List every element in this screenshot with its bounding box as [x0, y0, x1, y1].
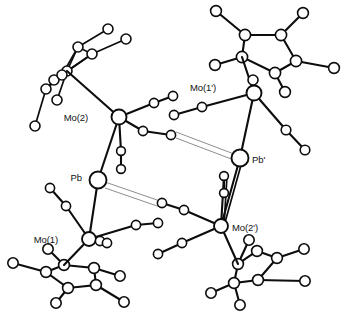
ring-h-atom [8, 258, 18, 268]
ring-atom [239, 29, 250, 40]
ligand-atom [153, 249, 162, 258]
ligand-atom [117, 165, 126, 174]
ring-h-atom [119, 297, 129, 307]
atom-mo1 [82, 232, 96, 246]
ring-atom [63, 283, 74, 294]
ligand-atom [138, 126, 147, 135]
ring-h-atom [52, 95, 62, 105]
ligand-atom [220, 172, 229, 181]
atom-mo1prime [247, 86, 262, 101]
ring-atom [89, 263, 100, 274]
ligand-atom [153, 218, 162, 227]
ring-atom [290, 55, 301, 66]
ligand-atom-group [45, 75, 309, 259]
ring-atom [275, 29, 286, 40]
atom-mo1-overlap-b [102, 238, 111, 247]
cp-ring-top-right [210, 6, 340, 98]
ring-h-atom [211, 6, 222, 17]
ring-h-atom [329, 63, 340, 74]
ligand-atom [248, 75, 258, 85]
ligand-atom [179, 205, 188, 214]
ring-h-atom [244, 235, 254, 245]
label-mo2: Mo(2) [64, 112, 88, 123]
label-mo1prime: Mo(1') [190, 82, 216, 93]
ligand-atom [169, 110, 178, 119]
ligand-atom [45, 183, 54, 192]
ligand-atom [220, 189, 229, 198]
ring-h-atom [43, 244, 53, 254]
ring-atom [269, 67, 280, 78]
ring-h-atom [206, 288, 216, 298]
rod-bond-pb-lower [105, 182, 160, 207]
ligand-atom [61, 201, 70, 210]
atom-pb [90, 172, 107, 189]
ring-h-atom [300, 276, 310, 286]
ligand-atom [117, 147, 126, 156]
ring-atom [253, 275, 264, 286]
ligand-atom [197, 102, 206, 111]
partial-caption [0, 316, 344, 325]
ring-atom [229, 278, 240, 289]
ring-atom [57, 70, 67, 80]
ring-h-atom [103, 24, 113, 34]
cp-ring-bottom-right [206, 235, 310, 310]
label-pbprime: Pb' [252, 154, 265, 165]
ring-h-atom [30, 121, 40, 131]
ring-atom [91, 280, 102, 291]
label-pb: Pb [71, 172, 82, 183]
ring-atom [252, 246, 263, 257]
ring-atom [73, 42, 83, 52]
ring-h-atom [51, 298, 61, 308]
cp-ring-bottom-left [8, 244, 129, 308]
ligand-atom [157, 198, 166, 207]
ring-h-atom [235, 300, 245, 310]
atom-mo2 [112, 110, 127, 125]
ring-atom [272, 253, 283, 264]
ligand-atom [131, 220, 140, 229]
ligand-atom [168, 91, 177, 100]
rod-bond-pbprime-upper [176, 132, 234, 160]
ring-h-atom [115, 271, 125, 281]
ligand-atom [281, 125, 291, 135]
ring-h-atom [41, 84, 51, 94]
ring-h-atom [210, 60, 221, 71]
ligand-atom [166, 130, 175, 139]
molecular-structure-figure: Mo(2) Mo(1') Pb Pb' Mo(1) Mo(2') [0, 0, 344, 325]
ring-h-atom [298, 8, 309, 19]
atom-mo2prime [214, 219, 228, 233]
ring-atom [87, 49, 97, 59]
label-mo2prime: Mo(2') [232, 222, 258, 233]
structure-canvas: Mo(2) Mo(1') Pb Pb' Mo(1) Mo(2') [0, 0, 344, 325]
ring-h-atom [121, 34, 131, 44]
ligand-atom [177, 238, 186, 247]
ring-atom [41, 267, 52, 278]
ligand-atom [300, 145, 310, 155]
ligand-atom [149, 98, 158, 107]
ring-h-atom [280, 87, 291, 98]
atom-pbprime [232, 150, 249, 167]
ring-h-atom [299, 244, 309, 254]
label-mo1: Mo(1) [34, 234, 58, 245]
